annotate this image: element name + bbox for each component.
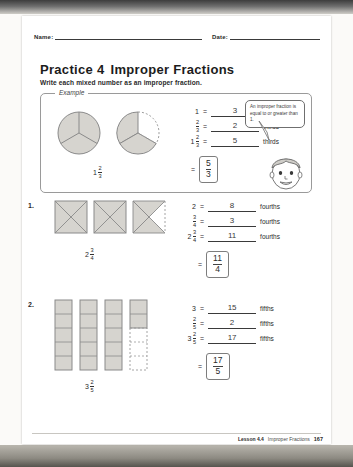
equals-sign: = [203, 138, 207, 145]
title-practice-word: Practice [40, 62, 93, 77]
square-whole-1 [55, 201, 87, 233]
problem-2-equation-row-2: 2 5 = 2 fifths [174, 316, 274, 331]
equals-sign: = [200, 305, 204, 312]
problem-2-row1-unit: fifths [260, 305, 274, 312]
equals-sign: = [200, 335, 204, 342]
boy-illustration-icon [262, 148, 310, 192]
problem-1-diagram-mixed-number: 2 3 4 [85, 248, 94, 261]
problem-1-equation-row-1: 2 = 8 fourths [174, 199, 280, 214]
pie-partial [117, 112, 159, 154]
problem-1-number: 1. [28, 202, 34, 209]
equals-sign: = [203, 123, 207, 130]
example-row3-answer[interactable]: 5 [211, 136, 259, 147]
example-row1-lhs: 1 [177, 108, 199, 115]
example-pie-diagrams [53, 106, 168, 168]
equals-sign: = [200, 320, 204, 327]
problem-2-row2-unit: fifths [260, 320, 274, 327]
example-box: Example 1 [40, 93, 312, 193]
problem-2-row3-answer[interactable]: 17 [208, 333, 256, 344]
footer-page-number: 167 [314, 436, 323, 442]
date-input-line[interactable] [230, 32, 320, 40]
problem-2-bar-diagrams [54, 299, 174, 377]
problem-1-equation-row-2: 3 4 = 3 fourths [174, 214, 280, 229]
problem-1-row2-answer[interactable]: 3 [208, 216, 256, 227]
problem-1-row3-unit: fourths [260, 233, 280, 240]
bar-whole-3 [105, 300, 122, 370]
square-partial-3 [133, 201, 165, 233]
title-topic: Improper Fractions [111, 62, 235, 77]
problem-2-final-answer: = 17 5 [198, 353, 230, 380]
example-row3-lhs: 1 2 3 [177, 135, 199, 148]
equals-sign: = [200, 218, 204, 225]
footer-divider [32, 433, 321, 434]
problem-1-square-diagrams [54, 200, 174, 246]
problem-2-row2-answer[interactable]: 2 [208, 318, 256, 329]
pie-whole [58, 112, 100, 154]
example-diagram-mixed-number: 1 2 3 [93, 166, 102, 179]
problem-1-row2-unit: fourths [260, 218, 280, 225]
title-practice-number: 4 [97, 62, 105, 77]
equals-sign: = [203, 108, 207, 115]
square-whole-2 [94, 201, 126, 233]
problem-2-equation-row-1: 3 = 15 fifths [174, 301, 274, 316]
instructions: Write each mixed number as an improper f… [40, 79, 202, 86]
footer-topic: Improper Fractions [268, 436, 310, 442]
page-bottom-band [0, 445, 353, 467]
problem-2-diagram-mixed-number: 3 2 5 [85, 380, 94, 393]
date-field-group: Date: [212, 32, 320, 40]
problem-2-final-equals: = [198, 363, 202, 370]
bar-whole-2 [80, 300, 97, 370]
name-input-line[interactable] [55, 32, 202, 40]
worksheet-page: Name: Date: Practice4Improper Fractions … [0, 0, 353, 467]
example-mixed-fraction: 2 3 [98, 166, 101, 179]
worksheet-sheet: Name: Date: Practice4Improper Fractions … [22, 16, 331, 444]
problem-2-equations: 3 = 15 fifths 2 5 = 2 fifths [174, 301, 274, 346]
example-label: Example [55, 89, 88, 96]
problem-2-answer-box[interactable]: 17 5 [206, 353, 229, 380]
page-top-band [0, 0, 353, 14]
bar-partial-4 [130, 300, 147, 370]
date-label: Date: [212, 34, 228, 40]
problem-1-final-answer: = 11 4 [198, 251, 229, 278]
name-date-row: Name: Date: [34, 32, 320, 40]
equals-sign: = [200, 203, 204, 210]
example-final-equals: = [191, 166, 195, 173]
problem-1-row1-answer[interactable]: 8 [208, 201, 256, 212]
example-final-answer: = 5 3 [191, 156, 218, 183]
example-row2-lhs: 2 3 [177, 120, 199, 133]
footer: Lesson 4.4 Improper Fractions 167 [238, 436, 323, 442]
equals-sign: = [200, 233, 204, 240]
example-answer-box[interactable]: 5 3 [199, 156, 218, 183]
problem-2-row1-answer[interactable]: 15 [208, 303, 256, 314]
name-label: Name: [34, 34, 53, 40]
problem-2-number: 2. [28, 301, 34, 308]
example-mixed-whole: 1 [93, 169, 97, 176]
problem-1-answer-box[interactable]: 11 4 [206, 251, 229, 278]
problem-1-equations: 2 = 8 fourths 3 4 = 3 fourths [174, 199, 280, 244]
bar-whole-1 [55, 300, 72, 370]
problem-1-row1-unit: fourths [260, 203, 280, 210]
problem-2-row3-unit: fifths [260, 335, 274, 342]
page-title: Practice4Improper Fractions [40, 62, 234, 77]
problem-1-final-equals: = [198, 261, 202, 268]
footer-lesson: Lesson 4.4 [238, 436, 264, 442]
problem-2-equation-row-3: 3 2 5 = 17 fifths [174, 331, 274, 346]
problem-1-row3-answer[interactable]: 11 [208, 231, 256, 242]
problem-1-equation-row-3: 2 3 4 = 11 fourths [174, 229, 280, 244]
